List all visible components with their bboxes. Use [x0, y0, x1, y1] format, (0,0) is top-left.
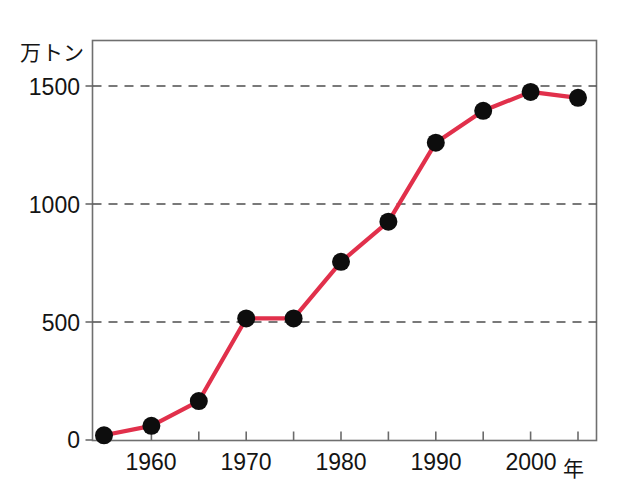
y-tick-label-1000: 1000: [0, 192, 80, 219]
data-point-1985: [379, 213, 397, 231]
data-point-1960: [142, 417, 160, 435]
data-point-1975: [285, 309, 303, 327]
y-tick-label-500: 500: [0, 310, 80, 337]
x-tick-label-1980: 1980: [301, 449, 381, 476]
x-tick-label-2000: 2000: [491, 449, 571, 476]
data-point-2000: [522, 83, 540, 101]
data-point-1970: [237, 309, 255, 327]
y-axis-unit-label: 万トン: [20, 36, 85, 66]
data-point-1990: [427, 134, 445, 152]
data-point-1955: [95, 426, 113, 444]
y-tick-label-0: 0: [0, 427, 80, 454]
x-tick-label-1960: 1960: [111, 449, 191, 476]
x-axis-unit-label: 年: [563, 452, 584, 482]
data-point-1995: [474, 102, 492, 120]
x-tick-label-1990: 1990: [396, 449, 476, 476]
y-tick-label-1500: 1500: [0, 74, 80, 101]
line-chart: 万トン 1500 1000 500 0 1960 1970 1980 1990 …: [0, 0, 625, 494]
x-tick-label-1970: 1970: [206, 449, 286, 476]
data-point-1965: [190, 392, 208, 410]
data-point-1980: [332, 253, 350, 271]
chart-canvas: [0, 0, 625, 494]
data-point-2005: [569, 89, 587, 107]
chart-background: [0, 0, 625, 494]
